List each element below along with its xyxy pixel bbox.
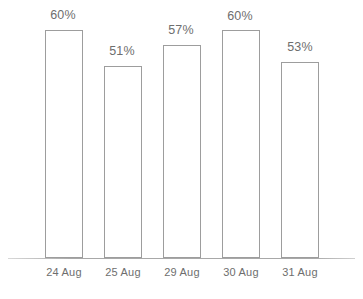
bar-value-label: 51% (92, 44, 152, 58)
category-label-30-aug: 30 Aug (211, 266, 271, 278)
category-label-25-aug: 25 Aug (93, 266, 153, 278)
category-label-29-aug: 29 Aug (152, 266, 212, 278)
bar-25-aug[interactable] (104, 66, 142, 258)
bar-30-aug[interactable] (222, 30, 260, 258)
bar-24-aug[interactable] (45, 30, 83, 258)
category-label-24-aug: 24 Aug (34, 266, 94, 278)
bar-31-aug[interactable] (281, 62, 319, 258)
bar-value-label: 53% (270, 40, 330, 54)
category-label-31-aug: 31 Aug (270, 266, 330, 278)
category-axis (8, 258, 355, 259)
bar-29-aug[interactable] (163, 45, 201, 258)
bar-value-label: 57% (151, 23, 211, 37)
bar-value-label: 60% (210, 9, 270, 23)
bar-value-label: 60% (33, 8, 93, 22)
plot-area: 60% 51% 57% 60% 53% 24 Aug 25 Aug 29 Aug… (0, 0, 363, 299)
bar-chart: 60% 51% 57% 60% 53% 24 Aug 25 Aug 29 Aug… (0, 0, 363, 299)
